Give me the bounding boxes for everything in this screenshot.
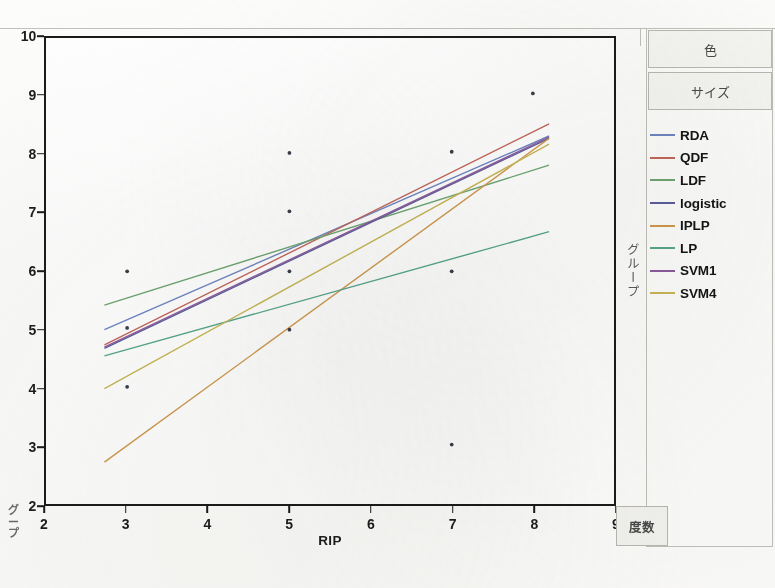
data-point[interactable] xyxy=(531,92,535,96)
y-axis-tick-mark xyxy=(37,446,44,448)
legend-swatch-icon xyxy=(650,292,675,294)
legend-item-logistic[interactable]: logistic xyxy=(650,192,772,215)
x-axis-tick-mark xyxy=(452,506,454,513)
legend-swatch-icon xyxy=(650,202,675,204)
data-point[interactable] xyxy=(125,385,129,389)
window-divider-top-right xyxy=(632,28,775,29)
frequency-cell[interactable]: 度数 xyxy=(616,506,668,546)
fit-line-svm4 xyxy=(104,144,549,388)
y-axis-tick-label: 10 xyxy=(21,28,36,44)
x-axis-tick-label: 4 xyxy=(204,516,212,532)
legend-item-qdf[interactable]: QDF xyxy=(650,147,772,170)
legend-swatch-icon xyxy=(650,179,675,181)
left-group-label-char: プ xyxy=(2,528,24,540)
x-axis-tick-mark xyxy=(207,506,209,513)
x-axis-tick-label: 2 xyxy=(40,516,48,532)
window-divider-bottom xyxy=(646,546,773,547)
legend: RDAQDFLDFlogisticIPLPLPSVM1SVM4 xyxy=(648,124,772,305)
x-axis-tick-mark xyxy=(370,506,372,513)
y-axis-tick-mark xyxy=(37,211,44,213)
legend-item-label: LDF xyxy=(680,173,706,188)
x-axis-tick-label: 7 xyxy=(449,516,457,532)
legend-item-iplp[interactable]: IPLP xyxy=(650,214,772,237)
data-point[interactable] xyxy=(125,326,129,330)
plot-canvas xyxy=(46,38,614,505)
side-panel: 色 サイズ RDAQDFLDFlogisticIPLPLPSVM1SVM4 xyxy=(648,30,772,305)
color-panel[interactable]: 色 xyxy=(648,30,772,68)
size-panel-label: サイズ xyxy=(691,82,730,101)
legend-item-svm4[interactable]: SVM4 xyxy=(650,282,772,305)
x-axis-tick-mark xyxy=(288,506,290,513)
x-axis-tick-mark xyxy=(533,506,535,513)
x-axis-tick-label: 5 xyxy=(285,516,293,532)
fit-line-qdf xyxy=(104,124,549,345)
frequency-cell-label: 度数 xyxy=(629,517,655,536)
y-axis-tick-mark xyxy=(37,388,44,390)
legend-item-label: SVM4 xyxy=(680,286,716,301)
legend-item-svm1[interactable]: SVM1 xyxy=(650,260,772,283)
y-axis-tick-mark xyxy=(37,35,44,37)
y-axis-tick-label: 7 xyxy=(28,204,36,220)
y-axis-tick-mark xyxy=(37,329,44,331)
legend-item-label: QDF xyxy=(680,150,708,165)
legend-swatch-icon xyxy=(650,270,675,272)
left-group-label-char: グ xyxy=(2,505,24,517)
y-axis-tick-label: 4 xyxy=(28,381,36,397)
y-axis-tick-label: 2 xyxy=(28,498,36,514)
y-axis-tick-label: 8 xyxy=(28,146,36,162)
y-axis-tick-mark xyxy=(37,94,44,96)
fit-line-logistic xyxy=(104,138,549,348)
x-axis-label: RIP xyxy=(44,533,616,548)
right-axis-title: グループ xyxy=(614,36,648,506)
y-axis-tick-mark xyxy=(37,270,44,272)
x-axis-tick-label: 6 xyxy=(367,516,375,532)
legend-item-ldf[interactable]: LDF xyxy=(650,169,772,192)
legend-swatch-icon xyxy=(650,134,675,136)
data-point[interactable] xyxy=(125,269,129,273)
data-point[interactable] xyxy=(450,443,454,447)
legend-item-rda[interactable]: RDA xyxy=(650,124,772,147)
legend-item-label: RDA xyxy=(680,128,709,143)
chart-region: 2345678910 23456789 RIP グープ xyxy=(0,0,640,588)
x-axis-tick-label: 8 xyxy=(530,516,538,532)
y-axis: 2345678910 xyxy=(0,36,44,506)
data-point[interactable] xyxy=(288,151,292,155)
legend-swatch-icon xyxy=(650,157,675,159)
legend-item-lp[interactable]: LP xyxy=(650,237,772,260)
size-panel[interactable]: サイズ xyxy=(648,72,772,110)
plot-area xyxy=(44,36,616,506)
fit-line-lp xyxy=(104,232,549,356)
legend-item-label: SVM1 xyxy=(680,263,716,278)
graph-window: 2345678910 23456789 RIP グープ グループ 度数 色 サイ… xyxy=(0,0,775,588)
y-axis-tick-label: 9 xyxy=(28,87,36,103)
legend-swatch-icon xyxy=(650,247,675,249)
data-point[interactable] xyxy=(288,328,292,332)
data-point[interactable] xyxy=(288,269,292,273)
y-axis-tick-label: 5 xyxy=(28,322,36,338)
window-divider-vertical-c xyxy=(772,28,773,546)
y-axis-tick-mark xyxy=(37,153,44,155)
legend-item-label: LP xyxy=(680,241,697,256)
legend-swatch-icon xyxy=(650,225,675,227)
x-axis-tick-mark xyxy=(43,506,45,513)
data-point[interactable] xyxy=(288,209,292,213)
data-point[interactable] xyxy=(450,269,454,273)
legend-item-label: IPLP xyxy=(680,218,710,233)
data-point[interactable] xyxy=(450,150,454,154)
right-axis-title-text: グループ xyxy=(623,243,642,299)
y-axis-tick-label: 3 xyxy=(28,439,36,455)
color-panel-label: 色 xyxy=(704,40,717,59)
x-axis-tick-mark xyxy=(125,506,127,513)
y-axis-tick-label: 6 xyxy=(28,263,36,279)
fit-line-svm1 xyxy=(104,137,549,347)
left-group-label: グープ xyxy=(2,505,24,540)
legend-item-label: logistic xyxy=(680,196,726,211)
x-axis-tick-label: 3 xyxy=(122,516,130,532)
